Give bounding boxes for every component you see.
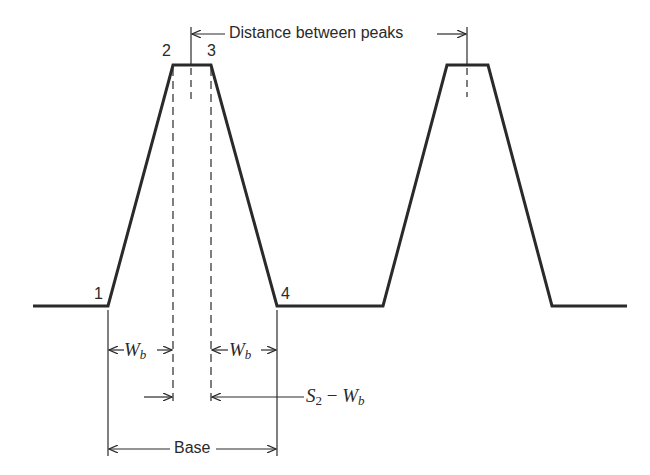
point-label-2: 2 [162,43,171,59]
base-label: Base [171,440,213,456]
s2-minus-wb-label: S2 − Wb [306,386,365,407]
distance-between-peaks-label: Distance between peaks [226,25,406,41]
signal-trace [33,65,627,306]
wb-label-left: Wb [124,340,146,361]
wb-label-right: Wb [229,340,251,361]
point-label-3: 3 [207,43,216,59]
point-label-4: 4 [281,286,290,302]
point-label-1: 1 [94,286,103,302]
